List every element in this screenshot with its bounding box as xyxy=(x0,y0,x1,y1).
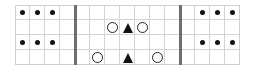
board-cell[interactable] xyxy=(135,5,150,20)
board-cell[interactable] xyxy=(135,50,150,65)
dot-piece-icon[interactable] xyxy=(200,40,205,45)
section-divider xyxy=(179,5,182,65)
section-divider xyxy=(74,5,77,65)
board-cell[interactable] xyxy=(210,50,225,65)
board-cell[interactable] xyxy=(45,20,60,35)
board-cell[interactable] xyxy=(45,50,60,65)
board-cell[interactable] xyxy=(75,50,90,65)
board-cell[interactable] xyxy=(15,20,30,35)
board-cell[interactable] xyxy=(165,20,180,35)
board-cell[interactable] xyxy=(75,20,90,35)
board-cell[interactable] xyxy=(180,20,195,35)
board-cell[interactable] xyxy=(180,35,195,50)
board-cell[interactable] xyxy=(225,50,240,65)
board-cell[interactable] xyxy=(120,5,135,20)
board-cell[interactable] xyxy=(165,50,180,65)
board-cell[interactable] xyxy=(180,5,195,20)
board-cell[interactable] xyxy=(195,20,210,35)
board-cell[interactable] xyxy=(180,50,195,65)
board-cell[interactable] xyxy=(60,20,75,35)
dot-piece-icon[interactable] xyxy=(215,40,220,45)
board-cell[interactable] xyxy=(60,5,75,20)
dot-piece-icon[interactable] xyxy=(50,10,55,15)
board-cell[interactable] xyxy=(60,35,75,50)
circle-piece-icon[interactable] xyxy=(137,22,148,33)
board-cell[interactable] xyxy=(195,50,210,65)
board-cell[interactable] xyxy=(135,35,150,50)
board-cell[interactable] xyxy=(30,50,45,65)
board-cell[interactable] xyxy=(210,20,225,35)
board-cell[interactable] xyxy=(120,35,135,50)
board-cell[interactable] xyxy=(60,50,75,65)
board-cell[interactable] xyxy=(225,20,240,35)
board-cell[interactable] xyxy=(15,50,30,65)
board-cell[interactable] xyxy=(150,20,165,35)
circle-piece-icon[interactable] xyxy=(92,52,103,63)
dot-piece-icon[interactable] xyxy=(215,10,220,15)
dot-piece-icon[interactable] xyxy=(230,40,235,45)
board-cell[interactable] xyxy=(90,20,105,35)
dot-piece-icon[interactable] xyxy=(20,10,25,15)
board-cell[interactable] xyxy=(150,5,165,20)
board-cell[interactable] xyxy=(150,35,165,50)
board-cell[interactable] xyxy=(75,35,90,50)
board-cell[interactable] xyxy=(165,5,180,20)
board-cell[interactable] xyxy=(105,5,120,20)
triangle-piece-icon[interactable] xyxy=(123,23,133,33)
dot-piece-icon[interactable] xyxy=(20,40,25,45)
triangle-piece-icon[interactable] xyxy=(123,53,133,63)
board-cell[interactable] xyxy=(105,50,120,65)
circle-piece-icon[interactable] xyxy=(152,52,163,63)
board-cell[interactable] xyxy=(90,35,105,50)
dot-piece-icon[interactable] xyxy=(50,40,55,45)
board-cell[interactable] xyxy=(75,5,90,20)
dot-piece-icon[interactable] xyxy=(35,40,40,45)
dot-piece-icon[interactable] xyxy=(200,10,205,15)
board-cell[interactable] xyxy=(30,20,45,35)
board-cell[interactable] xyxy=(165,35,180,50)
board-cell[interactable] xyxy=(105,35,120,50)
circle-piece-icon[interactable] xyxy=(107,22,118,33)
dot-piece-icon[interactable] xyxy=(230,10,235,15)
board-cell[interactable] xyxy=(90,5,105,20)
dot-piece-icon[interactable] xyxy=(35,10,40,15)
